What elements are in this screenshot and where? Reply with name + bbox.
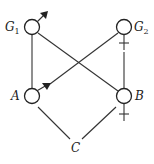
male-symbol-icon [25,89,40,104]
female-symbol-icon [117,89,132,104]
label-b: B [134,89,144,103]
pedigree-diagram: G1 G2 A B C [0,0,154,164]
label-c: C [71,141,80,155]
label-a: A [10,89,20,103]
node-a-male [25,83,52,104]
edge-b-c [82,107,116,139]
edge-g2-a [50,33,118,84]
node-b-female [117,89,132,122]
label-g2: G2 [134,20,149,36]
label-g1: G1 [5,20,20,36]
female-symbol-icon [117,20,132,35]
node-g1-male [25,11,49,35]
male-symbol-icon [25,20,40,35]
node-g2-female [117,20,132,51]
edge-a-c [38,107,70,139]
